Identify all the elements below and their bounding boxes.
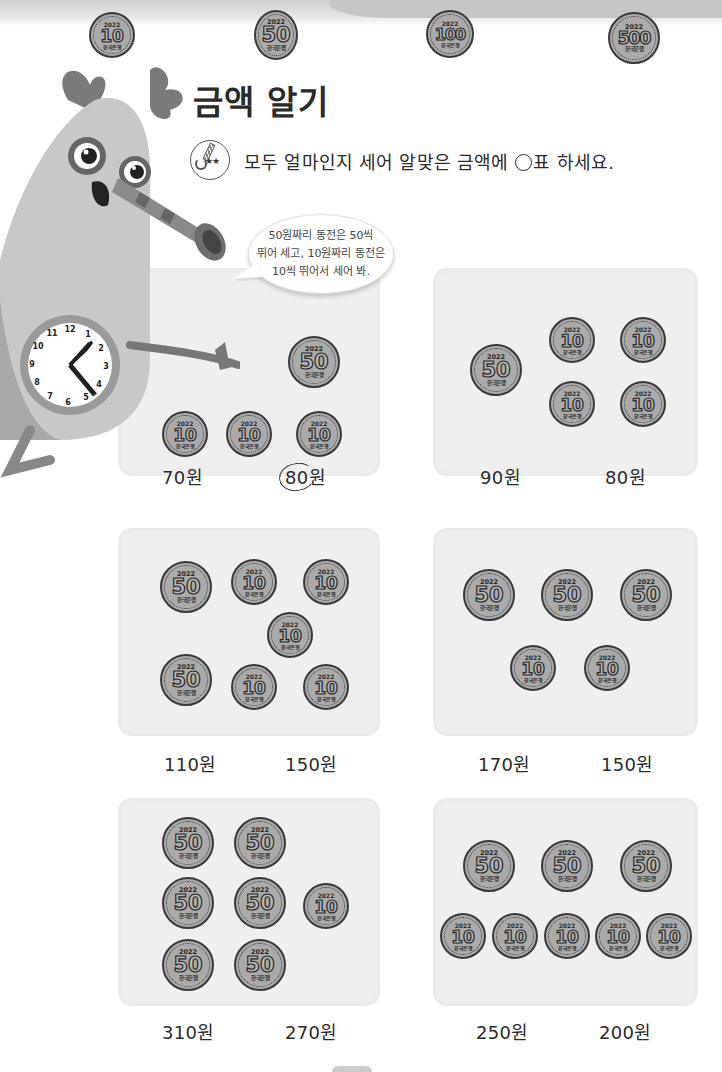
coin-bank: 한국은행 [524, 678, 542, 683]
coin-50-icon: 202250한국은행 [463, 569, 515, 621]
coin-year: 2022 [487, 354, 505, 361]
coin-value: 50 [171, 670, 200, 691]
coin-bank: 한국은행 [177, 691, 195, 697]
coin-value: 10 [631, 333, 655, 350]
coin-bank: 한국은행 [179, 976, 197, 982]
coin-10-icon: 202210한국은행 [440, 913, 486, 959]
coin-value: 500 [618, 30, 651, 47]
coin-year: 2022 [179, 827, 197, 834]
coin-value: 50 [245, 833, 274, 854]
coin-10-icon: 202210한국은행 [549, 317, 595, 363]
coin-bank: 한국은행 [305, 373, 323, 379]
problem-6-option-b[interactable]: 200원 [599, 1018, 652, 1044]
coin-50-icon: 202250한국은행 [541, 840, 593, 892]
circle-symbol-icon [515, 154, 532, 171]
coin-bank: 한국은행 [179, 854, 197, 860]
coin-value: 10 [242, 575, 266, 592]
coin-value: 50 [245, 955, 274, 976]
coin-year: 2022 [637, 579, 655, 586]
header-coin-100: 2022 100 한국은행 [426, 10, 474, 58]
coin-year: 2022 [507, 923, 524, 929]
problem-3-option-a[interactable]: 110원 [164, 750, 217, 776]
coin-year: 2022 [558, 579, 576, 586]
coin-year: 2022 [251, 887, 269, 894]
coin-value: 10 [307, 427, 331, 444]
problem-3-option-b[interactable]: 150원 [285, 750, 338, 776]
problem-1-option-a[interactable]: 70원 [162, 463, 203, 489]
coin-year: 2022 [661, 923, 678, 929]
coin-bank: 한국은행 [634, 414, 652, 419]
coin-bank: 한국은행 [506, 946, 524, 951]
problem-4-option-a[interactable]: 170원 [478, 750, 531, 776]
bubble-line-2: 뛰어 세고, 10원짜리 동전은 [257, 245, 385, 263]
coin-year: 2022 [246, 569, 263, 575]
coin-bank: 한국은행 [251, 854, 269, 860]
coin-year: 2022 [455, 923, 472, 929]
coin-50-icon: 202250한국은행 [234, 877, 286, 929]
coin-bank: 한국은행 [558, 946, 576, 951]
coin-10-icon: 202210한국은행 [231, 559, 277, 605]
coin-year: 2022 [637, 850, 655, 857]
coin-10-icon: 202210한국은행 [226, 411, 272, 457]
coin-10-icon: 202210한국은행 [231, 664, 277, 710]
coin-value: 50 [474, 585, 503, 606]
coin-value: 10 [606, 929, 630, 946]
coin-10-icon: 202210한국은행 [510, 645, 556, 691]
coin-10-icon: 202210한국은행 [620, 317, 666, 363]
coin-value: 50 [171, 577, 200, 598]
problem-2-option-a[interactable]: 90원 [480, 463, 521, 489]
coin-bank: 한국은행 [177, 598, 195, 604]
speech-bubble: 50원짜리 동전은 50씩 뛰어 세고, 10원짜리 동전은 10씩 뛰어서 세… [248, 214, 394, 294]
header-coin-500: 2022 500 한국은행 [608, 12, 660, 64]
problem-5-option-a[interactable]: 310원 [162, 1018, 215, 1044]
coin-bank: 한국은행 [634, 350, 652, 355]
coin-bank: 한국은행 [317, 916, 335, 921]
coin-10-icon: 202210한국은행 [584, 645, 630, 691]
problem-6-option-a[interactable]: 250원 [476, 1018, 529, 1044]
coin-year: 2022 [177, 571, 195, 578]
bubble-line-1: 50원짜리 동전은 50씩 [269, 227, 374, 245]
coin-year: 2022 [177, 664, 195, 671]
coin-value: 10 [503, 929, 527, 946]
coin-bank: 한국은행 [176, 444, 194, 449]
svg-text:11: 11 [46, 329, 58, 338]
coin-value: 50 [631, 585, 660, 606]
pencil-difficulty-icon: ★★ [190, 140, 230, 180]
coin-bank: 한국은행 [558, 606, 576, 612]
coin-year: 2022 [179, 887, 197, 894]
coin-bank: 한국은행 [281, 645, 299, 650]
coin-value: 50 [631, 856, 660, 877]
page-title: 금액 알기 [193, 76, 330, 124]
svg-text:5: 5 [83, 393, 89, 402]
coin-50-icon: 202250한국은행 [234, 939, 286, 991]
coin-bank: 한국은행 [251, 914, 269, 920]
coin-bank: 한국은행 [317, 697, 335, 702]
coin-10-icon: 202210한국은행 [303, 664, 349, 710]
coin-value: 50 [474, 856, 503, 877]
coin-bank: 한국은행 [563, 414, 581, 419]
coin-50-icon: 202250한국은행 [162, 877, 214, 929]
svg-text:7: 7 [47, 392, 53, 401]
problem-5-option-b[interactable]: 270원 [285, 1018, 338, 1044]
problem-2-option-b[interactable]: 80원 [605, 463, 646, 489]
coin-10-icon: 202210한국은행 [267, 612, 313, 658]
coin-bank: 한국은행 [251, 976, 269, 982]
coin-bank: 한국은행 [625, 47, 643, 53]
coin-year: 2022 [564, 391, 581, 397]
coin-year: 2022 [525, 655, 542, 661]
coin-year: 2022 [442, 21, 459, 27]
coin-year: 2022 [267, 19, 285, 26]
problem-6-panel [433, 798, 698, 1006]
coin-year: 2022 [305, 346, 323, 353]
coin-bank: 한국은행 [558, 877, 576, 883]
coin-value: 10 [100, 28, 124, 45]
problem-4-option-b[interactable]: 150원 [601, 750, 654, 776]
coin-bank: 한국은행 [103, 45, 121, 50]
instruction-text: 모두 얼마인지 세어 알맞은 금액에 표 하세요. [244, 148, 614, 174]
instruction-after: 표 하세요. [533, 152, 614, 173]
coin-value: 50 [245, 893, 274, 914]
coin-value: 10 [314, 680, 338, 697]
coin-year: 2022 [635, 391, 652, 397]
coin-year: 2022 [610, 923, 627, 929]
coin-year: 2022 [282, 622, 299, 628]
